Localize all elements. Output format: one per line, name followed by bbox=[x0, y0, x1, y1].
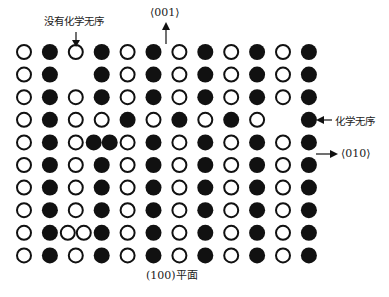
filled-atom bbox=[249, 225, 265, 241]
open-atom bbox=[17, 45, 31, 59]
filled-atom bbox=[42, 134, 58, 150]
open-atom bbox=[69, 90, 83, 104]
open-atom bbox=[172, 135, 186, 149]
filled-atom bbox=[249, 180, 265, 196]
filled-atom bbox=[301, 134, 317, 150]
filled-atom bbox=[146, 180, 162, 196]
filled-atom bbox=[42, 180, 58, 196]
open-atom bbox=[121, 68, 135, 82]
arrow-010-head bbox=[330, 150, 338, 158]
open-atom bbox=[172, 158, 186, 172]
open-atom bbox=[172, 248, 186, 262]
open-atom bbox=[147, 113, 161, 127]
open-atom bbox=[224, 226, 238, 240]
filled-atom bbox=[171, 112, 187, 128]
filled-atom bbox=[197, 247, 213, 263]
open-atom bbox=[172, 45, 186, 59]
open-atom bbox=[121, 135, 135, 149]
open-atom bbox=[276, 68, 290, 82]
filled-atom bbox=[94, 247, 110, 263]
filled-atom bbox=[42, 44, 58, 60]
open-atom bbox=[69, 113, 83, 127]
filled-atom bbox=[301, 225, 317, 241]
filled-atom bbox=[146, 134, 162, 150]
filled-atom bbox=[301, 44, 317, 60]
open-atom bbox=[224, 248, 238, 262]
filled-atom bbox=[42, 157, 58, 173]
arrow-001-head bbox=[162, 22, 170, 30]
filled-atom bbox=[86, 134, 102, 150]
open-atom bbox=[172, 226, 186, 240]
filled-atom bbox=[94, 180, 110, 196]
filled-atom bbox=[301, 67, 317, 83]
filled-atom bbox=[94, 225, 110, 241]
open-atom bbox=[121, 181, 135, 195]
open-atom bbox=[69, 203, 83, 217]
label-plane-100: (100)平面 bbox=[146, 266, 198, 282]
open-atom bbox=[69, 45, 83, 59]
filled-atom bbox=[146, 225, 162, 241]
label-direction-001: ⟨001⟩ bbox=[150, 6, 180, 19]
open-atom bbox=[69, 158, 83, 172]
open-atom bbox=[172, 68, 186, 82]
open-atom bbox=[250, 113, 264, 127]
filled-atom bbox=[42, 247, 58, 263]
open-atom bbox=[172, 181, 186, 195]
label-direction-010: ⟨010⟩ bbox=[341, 147, 371, 160]
filled-atom bbox=[223, 112, 239, 128]
open-atom bbox=[69, 248, 83, 262]
atom-lattice bbox=[17, 44, 317, 263]
open-atom bbox=[172, 90, 186, 104]
open-atom bbox=[276, 181, 290, 195]
open-atom bbox=[276, 90, 290, 104]
open-atom bbox=[224, 135, 238, 149]
open-atom bbox=[121, 158, 135, 172]
open-atom bbox=[77, 226, 91, 240]
filled-atom bbox=[301, 180, 317, 196]
open-atom bbox=[224, 90, 238, 104]
filled-atom bbox=[249, 157, 265, 173]
open-atom bbox=[276, 248, 290, 262]
filled-atom bbox=[94, 202, 110, 218]
open-atom bbox=[17, 113, 31, 127]
filled-atom bbox=[146, 247, 162, 263]
filled-atom bbox=[249, 134, 265, 150]
label-chemical-disorder: 化学无序 bbox=[335, 113, 375, 128]
open-atom bbox=[224, 203, 238, 217]
open-atom bbox=[224, 45, 238, 59]
filled-atom bbox=[249, 44, 265, 60]
filled-atom bbox=[146, 157, 162, 173]
open-atom bbox=[95, 113, 109, 127]
filled-atom bbox=[94, 44, 110, 60]
open-atom bbox=[276, 203, 290, 217]
open-atom bbox=[172, 203, 186, 217]
filled-atom bbox=[197, 67, 213, 83]
filled-atom bbox=[249, 202, 265, 218]
open-atom bbox=[17, 181, 31, 195]
filled-atom bbox=[42, 202, 58, 218]
open-atom bbox=[17, 248, 31, 262]
open-atom bbox=[17, 203, 31, 217]
filled-atom bbox=[301, 247, 317, 263]
filled-atom bbox=[197, 180, 213, 196]
filled-atom bbox=[42, 225, 58, 241]
arrow-disorder-head bbox=[316, 116, 324, 124]
open-atom bbox=[17, 135, 31, 149]
open-atom bbox=[17, 226, 31, 240]
open-atom bbox=[17, 90, 31, 104]
filled-atom bbox=[249, 89, 265, 105]
filled-atom bbox=[102, 134, 118, 150]
open-atom bbox=[224, 68, 238, 82]
filled-atom bbox=[301, 157, 317, 173]
filled-atom bbox=[249, 247, 265, 263]
filled-atom bbox=[146, 67, 162, 83]
filled-atom bbox=[197, 157, 213, 173]
open-atom bbox=[276, 158, 290, 172]
filled-atom bbox=[120, 112, 136, 128]
filled-atom bbox=[197, 89, 213, 105]
filled-atom bbox=[146, 202, 162, 218]
open-atom bbox=[69, 135, 83, 149]
open-atom bbox=[69, 181, 83, 195]
filled-atom bbox=[197, 225, 213, 241]
filled-atom bbox=[94, 157, 110, 173]
